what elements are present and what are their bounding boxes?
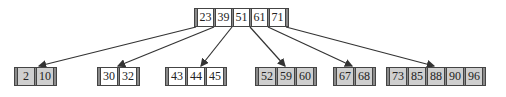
edge-to-leaf-2 (118, 27, 214, 66)
edge-to-leaf-6 (286, 27, 434, 66)
leaf-key: 32 (120, 68, 136, 85)
leaf-key: 59 (278, 68, 294, 85)
leaf-key: 85 (409, 68, 425, 85)
leaf-key: 73 (390, 68, 406, 85)
pointer-bar (53, 68, 56, 85)
root-key: 71 (270, 9, 285, 26)
edge-to-leaf-1 (39, 27, 196, 66)
leaf-key: 96 (466, 68, 482, 85)
leaf-key: 52 (259, 68, 275, 85)
root-key: 23 (198, 9, 213, 26)
leaf-key: 60 (297, 68, 313, 85)
root-key: 61 (252, 9, 267, 26)
leaf-key: 88 (428, 68, 444, 85)
leaf-key: 44 (188, 68, 204, 85)
leaf-key: 45 (207, 68, 223, 85)
leaf-key: 43 (169, 68, 185, 85)
leaf-key: 68 (356, 68, 372, 85)
leaf-node-5: 67 68 (333, 67, 376, 86)
pointer-bar (313, 68, 316, 85)
leaf-key: 30 (101, 68, 117, 85)
leaf-key: 90 (447, 68, 463, 85)
leaf-node-6: 73 85 88 90 96 (386, 67, 486, 86)
pointer-bar (372, 68, 375, 85)
pointer-bar (482, 68, 485, 85)
leaf-key: 67 (337, 68, 353, 85)
leaf-node-2: 30 32 (97, 67, 140, 86)
leaf-key: 2 (18, 68, 34, 85)
root-key: 39 (216, 9, 231, 26)
leaf-node-1: 2 10 (14, 67, 57, 86)
root-key: 51 (234, 9, 249, 26)
pointer-bar (136, 68, 139, 85)
edge-to-leaf-3 (201, 27, 232, 66)
leaf-key: 10 (37, 68, 53, 85)
leaf-node-3: 43 44 45 (165, 67, 227, 86)
pointer-bar (223, 68, 226, 85)
leaf-node-4: 52 59 60 (255, 67, 317, 86)
pointer-bar (285, 9, 288, 26)
root-node: 23 39 51 61 71 (194, 8, 289, 27)
